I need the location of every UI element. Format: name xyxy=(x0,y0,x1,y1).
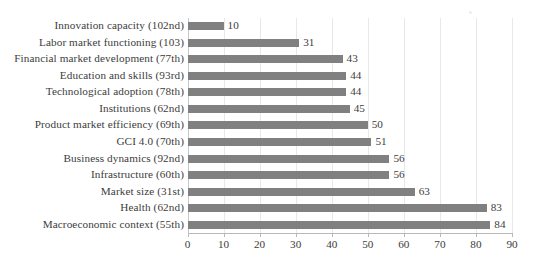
bar-row: Technological adoption (78th)44 xyxy=(0,84,535,101)
bar xyxy=(188,22,224,30)
bar-row: Financial market development (77th)43 xyxy=(0,51,535,68)
bar-row: Innovation capacity (102nd)10 xyxy=(0,18,535,35)
image-artifact xyxy=(469,11,472,14)
bar-wrapper: 84 xyxy=(188,216,535,233)
tick-mark xyxy=(296,233,297,237)
bar xyxy=(188,138,372,146)
bar-value-label: 56 xyxy=(393,153,404,164)
category-label: Infrastructure (60th) xyxy=(91,169,184,180)
x-tick-label: 60 xyxy=(398,239,409,250)
bar-wrapper: 51 xyxy=(188,134,535,151)
category-label: Labor market functioning (103) xyxy=(39,37,184,48)
tick-mark xyxy=(440,233,441,237)
bar-row: Health (62nd)83 xyxy=(0,200,535,217)
x-tick-label: 40 xyxy=(326,239,337,250)
bar-row: Labor market functioning (103)31 xyxy=(0,35,535,52)
bar-wrapper: 56 xyxy=(188,150,535,167)
bar xyxy=(188,88,347,96)
bar-wrapper: 56 xyxy=(188,167,535,184)
tick-mark xyxy=(260,233,261,237)
bar-wrapper: 31 xyxy=(188,35,535,52)
category-label: Innovation capacity (102nd) xyxy=(55,21,184,32)
bar-value-label: 83 xyxy=(491,203,502,214)
x-tick-label: 90 xyxy=(506,239,517,250)
x-tick-label: 0 xyxy=(185,239,191,250)
tick-mark xyxy=(512,233,513,237)
tick-mark xyxy=(368,233,369,237)
category-label: Market size (31st) xyxy=(101,186,184,197)
bar-wrapper: 44 xyxy=(188,68,535,85)
bar-wrapper: 50 xyxy=(188,117,535,134)
bar-value-label: 43 xyxy=(347,54,358,65)
bar-wrapper: 44 xyxy=(188,84,535,101)
bar-value-label: 63 xyxy=(419,186,430,197)
category-label: Institutions (62nd) xyxy=(99,103,184,114)
category-label: Business dynamics (92nd) xyxy=(64,153,184,164)
bar xyxy=(188,171,390,179)
bar xyxy=(188,121,368,129)
bar-wrapper: 45 xyxy=(188,101,535,118)
category-label: Education and skills (93rd) xyxy=(60,70,184,81)
bar-row: Infrastructure (60th)56 xyxy=(0,167,535,184)
bar xyxy=(188,105,350,113)
bar-value-label: 44 xyxy=(350,87,361,98)
bar-row: Macroeconomic context (55th)84 xyxy=(0,216,535,233)
tick-mark xyxy=(404,233,405,237)
bar xyxy=(188,221,491,229)
x-tick-label: 70 xyxy=(434,239,445,250)
bar-value-label: 45 xyxy=(354,103,365,114)
bar-wrapper: 10 xyxy=(188,18,535,35)
tick-mark xyxy=(476,233,477,237)
bar xyxy=(188,188,415,196)
category-label: Product market efficiency (69th) xyxy=(35,120,184,131)
bar-rows: Innovation capacity (102nd)10Labor marke… xyxy=(0,18,535,233)
tick-mark xyxy=(332,233,333,237)
bar-wrapper: 63 xyxy=(188,183,535,200)
bar xyxy=(188,55,343,63)
x-tick-label: 50 xyxy=(362,239,373,250)
bar-row: GCI 4.0 (70th)51 xyxy=(0,134,535,151)
bar xyxy=(188,155,390,163)
x-tick-label: 20 xyxy=(254,239,265,250)
bar-value-label: 31 xyxy=(303,37,314,48)
category-label: GCI 4.0 (70th) xyxy=(116,136,184,147)
bar-row: Business dynamics (92nd)56 xyxy=(0,150,535,167)
bar-row: Product market efficiency (69th)50 xyxy=(0,117,535,134)
category-label: Financial market development (77th) xyxy=(14,54,184,65)
bar xyxy=(188,72,347,80)
bar-chart: Innovation capacity (102nd)10Labor marke… xyxy=(0,0,535,261)
x-axis-ticks: 0102030405060708090 xyxy=(188,233,513,257)
category-label: Technological adoption (78th) xyxy=(46,87,184,98)
x-tick-label: 80 xyxy=(470,239,481,250)
bar-row: Institutions (62nd)45 xyxy=(0,101,535,118)
bar-value-label: 84 xyxy=(494,219,505,230)
bar-value-label: 56 xyxy=(393,169,404,180)
tick-mark xyxy=(224,233,225,237)
bar xyxy=(188,204,487,212)
bar-row: Education and skills (93rd)44 xyxy=(0,68,535,85)
bar-wrapper: 83 xyxy=(188,200,535,217)
bar xyxy=(188,39,300,47)
bar-row: Market size (31st)63 xyxy=(0,183,535,200)
bar-value-label: 10 xyxy=(228,21,239,32)
x-tick-label: 10 xyxy=(218,239,229,250)
bar-value-label: 44 xyxy=(350,70,361,81)
bar-wrapper: 43 xyxy=(188,51,535,68)
bar-value-label: 51 xyxy=(375,136,386,147)
tick-mark xyxy=(188,233,189,237)
bar-value-label: 50 xyxy=(372,120,383,131)
category-label: Health (62nd) xyxy=(120,203,184,214)
x-tick-label: 30 xyxy=(290,239,301,250)
category-label: Macroeconomic context (55th) xyxy=(43,219,184,230)
